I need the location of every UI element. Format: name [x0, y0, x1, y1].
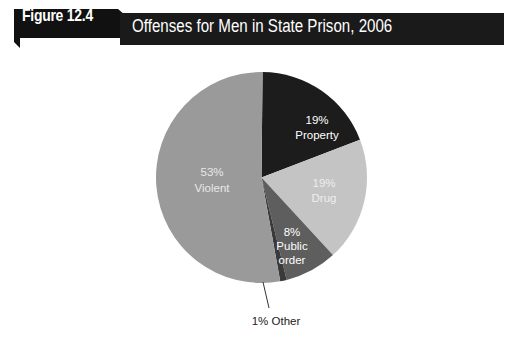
label-drug-name: Drug — [312, 192, 337, 204]
label-drug-pct: 19% — [312, 177, 335, 189]
label-property-name: Property — [295, 129, 339, 141]
label-public-order-line1: Public — [276, 240, 308, 252]
pie-chart: 19% Property 19% Drug 8% Public order 1%… — [0, 0, 521, 340]
other-leader-line — [263, 282, 269, 308]
label-violent-name: Violent — [195, 182, 231, 194]
label-public-order-pct: 8% — [284, 226, 301, 238]
label-violent-pct: 53% — [200, 166, 223, 178]
label-property-pct: 19% — [305, 114, 328, 126]
label-other: 1% Other — [252, 315, 301, 327]
label-public-order-line2: order — [279, 254, 306, 266]
